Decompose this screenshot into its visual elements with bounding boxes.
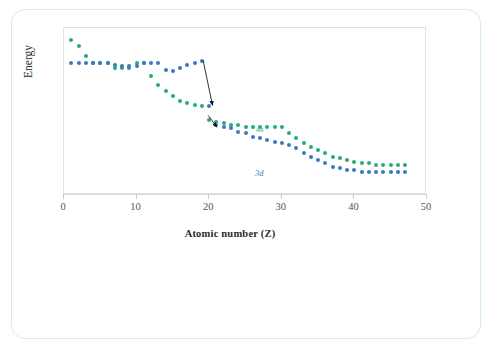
data-point-3d xyxy=(345,168,349,172)
data-point-3d xyxy=(265,138,269,142)
data-point-3d xyxy=(316,158,320,162)
data-point-3d xyxy=(403,170,407,174)
data-point-3d xyxy=(156,61,160,65)
data-point-4s xyxy=(265,125,269,129)
data-point-3d xyxy=(164,68,168,72)
data-point-3d xyxy=(367,170,371,174)
x-axis-title: Atomic number (Z) xyxy=(0,228,460,239)
data-point-3d xyxy=(302,151,306,155)
data-point-4s xyxy=(345,158,349,162)
x-axis-line xyxy=(63,194,426,195)
plot-frame xyxy=(63,27,426,194)
data-point-3d xyxy=(287,143,291,147)
data-point-3d xyxy=(171,69,175,73)
data-point-4s xyxy=(381,163,385,167)
data-point-3d xyxy=(229,126,233,130)
data-point-3d xyxy=(214,123,218,127)
x-tick-label: 40 xyxy=(348,201,359,212)
data-point-4s xyxy=(389,163,393,167)
data-point-4s xyxy=(367,161,371,165)
data-point-4s xyxy=(352,160,356,164)
data-point-3d xyxy=(273,140,277,144)
data-point-3d xyxy=(149,61,153,65)
data-point-3d xyxy=(222,125,226,129)
data-point-3d xyxy=(142,61,146,65)
data-point-3d xyxy=(207,104,211,108)
data-point-3d xyxy=(113,63,117,67)
data-point-4s xyxy=(156,83,160,87)
plot-area xyxy=(64,28,425,193)
data-point-3d xyxy=(178,66,182,70)
x-tick-mark xyxy=(208,194,209,199)
x-tick-label: 10 xyxy=(130,201,141,212)
data-point-3d xyxy=(193,61,197,65)
data-point-4s xyxy=(403,163,407,167)
data-point-4s xyxy=(193,103,197,107)
x-tick-mark xyxy=(136,194,137,199)
data-point-3d xyxy=(69,61,73,65)
data-point-4s xyxy=(200,104,204,108)
data-point-3d xyxy=(84,61,88,65)
data-point-4s xyxy=(280,125,284,129)
data-point-4s xyxy=(149,74,153,78)
data-point-3d xyxy=(396,170,400,174)
x-tick-mark xyxy=(63,194,64,199)
data-point-3d xyxy=(352,168,356,172)
data-point-3d xyxy=(251,135,255,139)
x-tick-label: 50 xyxy=(421,201,432,212)
series-label-3d: 3d xyxy=(255,168,264,178)
data-point-4s xyxy=(207,118,211,122)
data-point-3d xyxy=(381,170,385,174)
data-point-3d xyxy=(135,64,139,68)
data-point-4s xyxy=(244,125,248,129)
x-tick-mark xyxy=(281,194,282,199)
data-point-4s xyxy=(77,44,81,48)
data-point-3d xyxy=(98,61,102,65)
x-tick-label: 20 xyxy=(203,201,214,212)
y-axis-title: Energy xyxy=(22,45,34,78)
data-point-3d xyxy=(236,130,240,134)
data-point-4s xyxy=(273,125,277,129)
data-point-3d xyxy=(200,59,204,63)
data-point-3d xyxy=(106,61,110,65)
x-tick-mark xyxy=(353,194,354,199)
data-point-4s xyxy=(360,161,364,165)
data-point-3d xyxy=(360,170,364,174)
data-point-3d xyxy=(280,141,284,145)
data-point-4s xyxy=(178,99,182,103)
data-point-4s xyxy=(294,136,298,140)
data-point-3d xyxy=(338,166,342,170)
data-point-4s xyxy=(287,131,291,135)
data-point-4s xyxy=(171,94,175,98)
data-point-3d xyxy=(374,170,378,174)
data-point-3d xyxy=(389,170,393,174)
data-point-3d xyxy=(244,131,248,135)
data-point-4s xyxy=(251,125,255,129)
data-point-3d xyxy=(331,165,335,169)
x-tick-label: 30 xyxy=(276,201,287,212)
data-point-3d xyxy=(77,61,81,65)
data-point-3d xyxy=(258,136,262,140)
data-point-3d xyxy=(294,146,298,150)
data-point-4s xyxy=(323,151,327,155)
data-point-3d xyxy=(185,63,189,67)
data-point-3d xyxy=(120,64,124,68)
data-point-4s xyxy=(374,163,378,167)
x-tick-label: 0 xyxy=(60,201,65,212)
data-point-4s xyxy=(236,123,240,127)
data-point-3d xyxy=(309,155,313,159)
data-point-4s xyxy=(316,148,320,152)
data-point-4s xyxy=(84,54,88,58)
data-point-4s xyxy=(164,89,168,93)
data-point-4s xyxy=(69,38,73,42)
data-point-4s xyxy=(331,155,335,159)
series-label-4s: 4s xyxy=(256,124,264,134)
data-point-4s xyxy=(185,101,189,105)
data-point-3d xyxy=(323,161,327,165)
x-tick-mark xyxy=(426,194,427,199)
data-point-4s xyxy=(396,163,400,167)
data-point-4s xyxy=(338,156,342,160)
data-point-4s xyxy=(309,145,313,149)
data-point-3d xyxy=(127,64,131,68)
